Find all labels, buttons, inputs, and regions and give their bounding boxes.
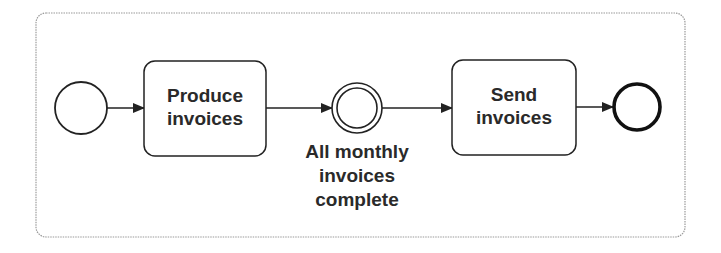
- start-event[interactable]: [55, 82, 107, 134]
- label-line: invoices: [452, 106, 576, 129]
- label-line: All monthly: [287, 140, 427, 164]
- end-event[interactable]: [614, 84, 660, 130]
- label-line: invoices: [287, 164, 427, 188]
- label-line: invoices: [144, 107, 266, 130]
- label-line: Produce: [144, 84, 266, 107]
- label-line: complete: [287, 188, 427, 212]
- task-send-label: Send invoices: [452, 83, 576, 129]
- task-produce-label: Produce invoices: [144, 84, 266, 130]
- intermediate-event-outer[interactable]: [332, 83, 382, 133]
- label-line: Send: [452, 83, 576, 106]
- intermediate-event-label: All monthly invoices complete: [287, 140, 427, 212]
- process-diagram: [0, 0, 721, 253]
